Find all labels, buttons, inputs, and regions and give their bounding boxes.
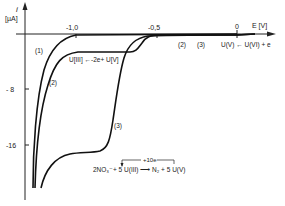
x-tick-label-0: 0 <box>235 23 239 30</box>
x-axis-arrow-icon <box>267 32 276 37</box>
y-axis-label-i: i <box>16 5 18 14</box>
curve-label-3: (3) <box>114 122 122 130</box>
y-axis-arrow-icon <box>23 2 28 10</box>
reaction-u3-label: U[III] ←-2e+ U[V] <box>69 56 119 64</box>
x-axis-label: E [V] <box>252 22 267 30</box>
curve-2 <box>35 34 255 188</box>
reaction-u5-label: U(V) ← U(VI) + e <box>221 41 271 49</box>
reaction-10e-label: +10e <box>143 157 157 163</box>
x-tick-label-m10: -1,0 <box>66 24 78 31</box>
curve-label-1: (1) <box>35 47 43 55</box>
y-tick-label-m8: - 8 <box>6 86 14 93</box>
curve-label-3-right: (3) <box>197 41 205 49</box>
curve-label-2: (2) <box>49 79 57 87</box>
chart-svg: i [µA] E [V] -1,0 -0,5 0 - 8 -16 (1) (2)… <box>0 0 285 206</box>
y-tick-label-m16: -16 <box>6 142 16 149</box>
curve-label-2-right: (2) <box>178 41 186 49</box>
y-axis-label-unit: [µA] <box>5 15 18 23</box>
voltammogram-chart: i [µA] E [V] -1,0 -0,5 0 - 8 -16 (1) (2)… <box>0 0 285 206</box>
reaction-main-label: 2NO₃⁻+ 5 U(III) ⟶ N₂ + 5 U(V) <box>93 166 186 174</box>
x-tick-label-m05: -0,5 <box>148 24 160 31</box>
